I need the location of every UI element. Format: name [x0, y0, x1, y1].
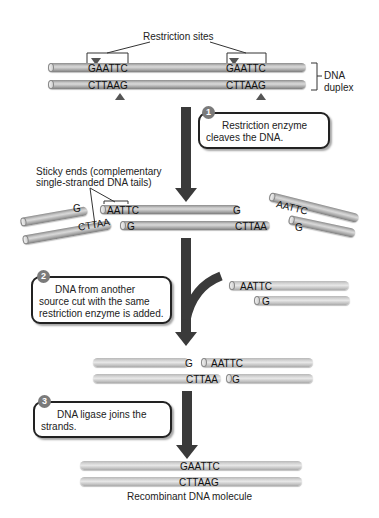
- middle-fragment-top-left-seq: AATTC: [107, 206, 139, 216]
- annealed-top-left-seq: G: [185, 359, 193, 369]
- step-3-badge: 3: [38, 395, 51, 408]
- arrow-down-icon: [181, 107, 191, 190]
- step-2-callout: DNA from another source cut with the sam…: [31, 276, 172, 324]
- site1-top-seq: GAATTC: [88, 64, 128, 74]
- annealed-top-right-seq: AATTC: [211, 359, 243, 369]
- arrow-head-icon: [176, 445, 198, 459]
- step-1-badge: 1: [202, 106, 215, 119]
- dna-strand-top: [48, 63, 306, 72]
- cut-site-marker-icon: [115, 93, 125, 100]
- step-2-text-line3: restriction enzyme is added.: [39, 308, 164, 320]
- site2-top-seq: GAATTC: [226, 64, 266, 74]
- recombinant-caption: Recombinant DNA molecule: [127, 491, 252, 502]
- step-1-text-line1: Restriction enzyme: [206, 120, 322, 132]
- site2-bottom-seq: CTTAAG: [226, 81, 266, 91]
- middle-fragment-bottom-right-seq: CTTAA: [235, 222, 267, 232]
- curved-arrow-icon: [170, 270, 230, 340]
- dna-strand-bottom: [48, 80, 306, 89]
- arrow-down-icon: [182, 391, 192, 447]
- foreign-fragment-top-seq: AATTC: [240, 282, 272, 292]
- annealed-top-left: [93, 358, 189, 367]
- recombinant-top-seq: GAATTC: [180, 462, 220, 472]
- step-2-badge: 2: [37, 270, 50, 283]
- step-1-callout: Restriction enzyme cleaves the DNA.: [198, 112, 330, 149]
- step-3-text-line2: strands.: [41, 421, 164, 433]
- dna-duplex-label-line2: duplex: [324, 82, 353, 93]
- recombinant-bottom-seq: CTTAAG: [179, 478, 219, 488]
- restriction-site-brackets: [0, 0, 379, 110]
- sticky-ends-label-line1: Sticky ends (complementary: [36, 166, 162, 177]
- step-3-text-line1: DNA ligase joins the: [41, 409, 164, 421]
- step-3-callout: DNA ligase joins the strands.: [33, 401, 172, 438]
- left-fragment-top-seq: G: [73, 204, 81, 214]
- annealed-bottom-left-seq: CTTAA: [186, 375, 218, 385]
- annealed-bottom-right-seq: G: [232, 375, 240, 385]
- middle-fragment-bottom-left-seq: G: [127, 222, 135, 232]
- step-2-text-line2: source cut with the same: [39, 296, 164, 308]
- cut-site-marker-icon: [256, 93, 266, 100]
- step-1-text-line2: cleaves the DNA.: [206, 132, 322, 144]
- foreign-fragment-bottom-seq: G: [262, 297, 270, 307]
- middle-fragment-top-right-seq: G: [233, 206, 241, 216]
- dna-duplex-label-line1: DNA: [324, 70, 345, 81]
- right-fragment-bottom-seq: G: [295, 223, 303, 233]
- site1-bottom-seq: CTTAAG: [88, 81, 128, 91]
- step-2-text-line1: DNA from another: [39, 284, 164, 296]
